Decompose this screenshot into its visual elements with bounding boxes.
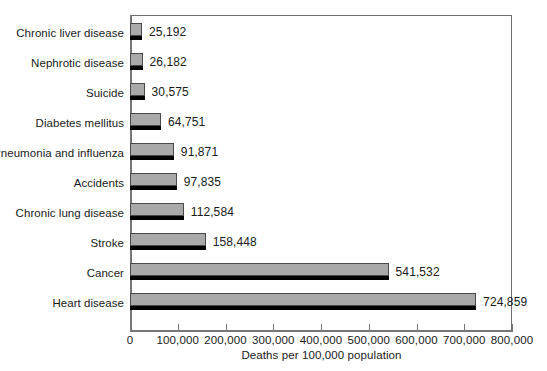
bar-shadow	[130, 186, 177, 190]
x-tick-label: 300,000	[252, 334, 294, 346]
bar-shadow	[130, 96, 145, 100]
bar-value-label: 30,575	[152, 85, 189, 99]
category-label: Nephrotic disease	[31, 57, 124, 69]
bar-row: Chronic liver disease25,192	[130, 18, 512, 48]
bar-row: Stroke158,448	[130, 228, 512, 258]
x-tick-label: 700,000	[443, 334, 485, 346]
bar-fill	[130, 113, 161, 126]
bar-value-label: 724,859	[483, 295, 527, 309]
bar-row: Heart disease724,859	[130, 288, 512, 318]
bar-shadow	[130, 276, 389, 280]
category-label: Pneumonia and influenza	[0, 147, 124, 159]
bar-value-label: 541,532	[396, 265, 440, 279]
bar-value-label: 26,182	[150, 55, 187, 69]
x-tick-mark	[178, 324, 179, 331]
x-tick-mark	[417, 324, 418, 331]
bar-shadow	[130, 126, 161, 130]
bar-shadow	[130, 156, 174, 160]
bar-fill	[130, 143, 174, 156]
bar: 91,871	[130, 143, 174, 160]
x-axis-title: Deaths per 100,000 population	[130, 349, 513, 361]
bar-value-label: 91,871	[181, 145, 218, 159]
category-label: Chronic lung disease	[16, 207, 124, 219]
bar-value-label: 97,835	[184, 175, 221, 189]
bar-shadow	[130, 246, 206, 250]
category-label: Suicide	[86, 87, 124, 99]
bar-shadow	[130, 66, 143, 70]
bar-shadow	[130, 306, 476, 310]
bar-row: Cancer541,532	[130, 258, 512, 288]
x-tick-mark	[369, 324, 370, 331]
bar-row: Pneumonia and influenza91,871	[130, 138, 512, 168]
bar-row: Suicide30,575	[130, 78, 512, 108]
bar-value-label: 158,448	[213, 235, 257, 249]
category-label: Stroke	[90, 237, 124, 249]
bar-shadow	[130, 216, 184, 220]
x-tick-mark	[512, 324, 513, 331]
bar-fill	[130, 293, 476, 306]
bar: 541,532	[130, 263, 389, 280]
category-label: Cancer	[87, 267, 124, 279]
bar-fill	[130, 23, 142, 36]
bar-value-label: 25,192	[149, 25, 186, 39]
bar-fill	[130, 53, 143, 66]
bar: 158,448	[130, 233, 206, 250]
bar-fill	[130, 263, 389, 276]
x-tick-mark	[321, 324, 322, 331]
bar: 26,182	[130, 53, 143, 70]
bar-value-label: 64,751	[168, 115, 205, 129]
bar-chart: Chronic liver disease25,192Nephrotic dis…	[0, 0, 547, 371]
x-tick-mark	[464, 324, 465, 331]
x-tick-mark	[226, 324, 227, 331]
bar: 64,751	[130, 113, 161, 130]
bar-fill	[130, 203, 184, 216]
bar: 112,584	[130, 203, 184, 220]
bar-fill	[130, 233, 206, 246]
category-label: Chronic liver disease	[16, 27, 124, 39]
bar: 97,835	[130, 173, 177, 190]
category-label: Accidents	[74, 177, 124, 189]
bar-fill	[130, 83, 145, 96]
bar: 25,192	[130, 23, 142, 40]
category-label: Heart disease	[52, 297, 124, 309]
x-tick-label: 800,000	[491, 334, 533, 346]
bar-shadow	[130, 36, 142, 40]
bar-row: Nephrotic disease26,182	[130, 48, 512, 78]
bar-row: Accidents97,835	[130, 168, 512, 198]
x-tick-label: 400,000	[300, 334, 342, 346]
x-tick-label: 0	[127, 334, 134, 346]
x-tick-label: 200,000	[204, 334, 246, 346]
bar-row: Diabetes mellitus64,751	[130, 108, 512, 138]
x-tick-mark	[273, 324, 274, 331]
x-tick-label: 100,000	[157, 334, 199, 346]
bar-fill	[130, 173, 177, 186]
x-tick-mark	[130, 324, 131, 331]
bar-value-label: 112,584	[191, 205, 234, 219]
x-tick-label: 500,000	[348, 334, 390, 346]
x-tick-label: 600,000	[395, 334, 437, 346]
category-label: Diabetes mellitus	[36, 117, 124, 129]
bar-row: Chronic lung disease112,584	[130, 198, 512, 228]
bar: 30,575	[130, 83, 145, 100]
bar: 724,859	[130, 293, 476, 310]
